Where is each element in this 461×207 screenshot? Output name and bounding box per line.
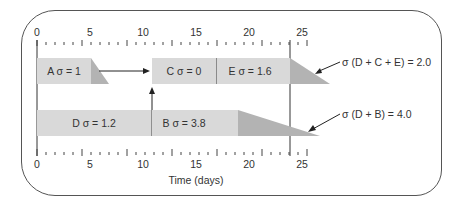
tick-label: 5 <box>87 158 93 170</box>
tick-label: 20 <box>243 158 255 170</box>
schedule-diagram: 0 5 10 15 20 25 A σ = 1 C σ = 0 E σ = 1.… <box>0 0 461 207</box>
svg-text:A σ = 1: A σ = 1 <box>47 65 81 77</box>
tick-label: 25 <box>296 158 308 170</box>
tick-label: 15 <box>190 158 202 170</box>
annotation-bottom-path: σ (D + B) = 4.0 <box>308 108 412 132</box>
svg-text:B σ = 3.8: B σ = 3.8 <box>163 117 206 129</box>
svg-text:σ (D + B) = 4.0: σ (D + B) = 4.0 <box>342 108 412 120</box>
tick-label: 5 <box>87 26 93 38</box>
svg-text:E σ = 1.6: E σ = 1.6 <box>229 65 272 77</box>
tick-label: 0 <box>34 158 40 170</box>
top-time-ruler <box>37 40 307 46</box>
activity-b: B σ = 3.8 <box>152 110 320 136</box>
bottom-ruler-labels: 0 5 10 15 20 25 Time (days) <box>34 158 308 186</box>
top-ruler-labels: 0 5 10 15 20 25 <box>34 26 308 38</box>
tick-label: 0 <box>34 26 40 38</box>
activity-a: A σ = 1 <box>37 58 109 84</box>
activity-c: C σ = 0 <box>152 58 217 84</box>
activity-e: E σ = 1.6 <box>217 58 330 84</box>
tick-label: 10 <box>137 158 149 170</box>
tick-label: 25 <box>296 26 308 38</box>
svg-text:σ (D + C + E) = 2.0: σ (D + C + E) = 2.0 <box>342 56 431 68</box>
tick-label: 15 <box>190 26 202 38</box>
svg-text:C σ = 0: C σ = 0 <box>167 65 202 77</box>
precedence-arrow-a-c <box>99 68 150 74</box>
svg-text:D σ = 1.2: D σ = 1.2 <box>72 117 116 129</box>
activity-d: D σ = 1.2 <box>37 110 152 136</box>
tick-label: 20 <box>243 26 255 38</box>
tick-label: 10 <box>137 26 149 38</box>
annotation-top-path: σ (D + C + E) = 2.0 <box>315 56 431 74</box>
bottom-time-ruler <box>37 149 307 156</box>
axis-label: Time (days) <box>168 174 223 186</box>
